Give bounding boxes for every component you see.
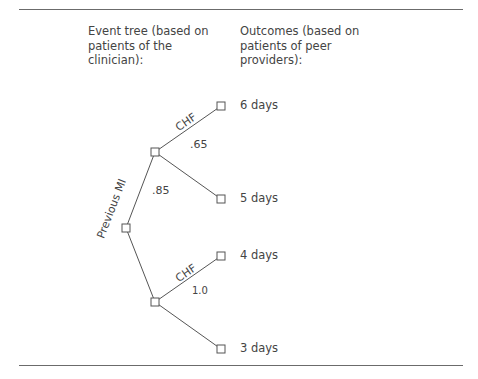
outcome-3-days: 3 days	[240, 341, 278, 355]
event-tree-diagram: Previous MI CHF CHF .85 .65 1.0	[0, 0, 478, 379]
prob-chf-upper: .65	[190, 138, 208, 151]
leaf-6-days	[217, 102, 225, 110]
outcome-6-days: 6 days	[240, 98, 278, 112]
prob-previous-mi: .85	[152, 184, 170, 197]
outcome-5-days: 5 days	[240, 191, 278, 205]
leaf-5-days	[217, 195, 225, 203]
prob-chf-lower: 1.0	[192, 285, 208, 296]
root-node	[122, 224, 130, 232]
outcome-4-days: 4 days	[240, 248, 278, 262]
mi-node	[151, 148, 159, 156]
leaf-4-days	[217, 252, 225, 260]
no-mi-node	[151, 298, 159, 306]
label-chf-lower: CHF	[173, 261, 199, 284]
leaf-3-days	[217, 345, 225, 353]
